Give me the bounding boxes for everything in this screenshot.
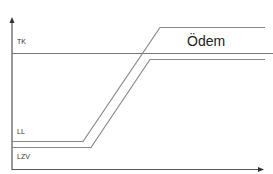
lzv-label: LZV (17, 153, 30, 160)
x-axis-arrow-icon (258, 167, 264, 172)
diagram-canvas (0, 0, 273, 174)
edema-region-label: Ödem (187, 33, 225, 49)
tk-label: TK (17, 38, 26, 45)
y-axis-arrow-icon (10, 17, 15, 23)
lzv-curve (12, 60, 265, 148)
ll-curve (12, 28, 265, 142)
ll-label: LL (17, 128, 25, 135)
